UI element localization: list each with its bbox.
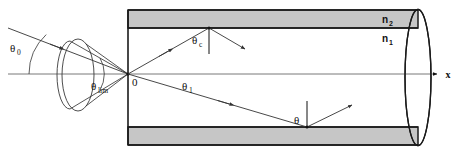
incident-ray-group: θ 0 [8, 28, 128, 74]
n2-label: n [382, 14, 388, 25]
theta1-subscript: 1 [189, 86, 193, 95]
optical-fiber-diagram: x θ 0 θ lim [0, 0, 463, 155]
theta0-arc [29, 35, 46, 74]
theta0-subscript: 0 [17, 48, 21, 57]
axis-x-label: x [446, 69, 451, 80]
fiber-core-region [128, 28, 418, 127]
cladding-band-top [128, 10, 418, 28]
lower-incidence-point [306, 126, 309, 129]
n1-subscript: 1 [389, 39, 393, 46]
fiber-body [128, 10, 431, 146]
theta-lim-subscript: lim [98, 86, 108, 95]
cladding-band-bottom [128, 127, 418, 145]
n2-subscript: 2 [389, 20, 393, 27]
incident-ray-arrow [50, 44, 62, 49]
origin-label: 0 [132, 76, 138, 88]
diagram-canvas: x θ 0 θ lim [0, 0, 463, 155]
lens-ellipse [62, 39, 94, 111]
theta0-label: θ [10, 42, 15, 54]
acceptance-cone-group: θ lim [70, 41, 128, 109]
incident-ray [8, 28, 128, 74]
upper-incidence-point [208, 27, 211, 30]
theta-bottom-label: θ [294, 114, 299, 126]
n1-label: n [382, 33, 388, 44]
theta-c-label: θ [192, 34, 197, 46]
theta-lim-label: θ [91, 80, 96, 92]
cone-ray-upper [70, 41, 128, 74]
theta1-label: θ [182, 80, 187, 92]
converging-lens-group [57, 39, 94, 111]
